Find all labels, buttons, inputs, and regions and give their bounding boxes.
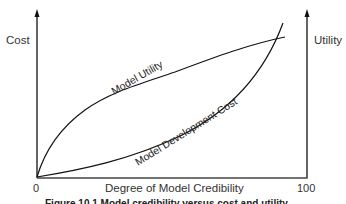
model-utility-label: Model Utility bbox=[109, 57, 165, 96]
chart: Model Utility Model Development Cost bbox=[0, 0, 346, 204]
x-axis-label: Degree of Model Credibility bbox=[105, 182, 244, 194]
figure-caption: Figure 10.1 Model credibility versus cos… bbox=[45, 198, 288, 204]
left-axis-arrow-icon bbox=[35, 9, 40, 17]
model-utility-curve bbox=[37, 37, 285, 177]
x-max-tick: 100 bbox=[297, 182, 315, 194]
right-axis-arrow-icon bbox=[305, 9, 310, 17]
x-min-tick: 0 bbox=[33, 182, 39, 194]
right-axis-label: Utility bbox=[314, 34, 342, 46]
model-development-cost-label: Model Development Cost bbox=[133, 95, 239, 168]
left-axis-label: Cost bbox=[6, 34, 30, 46]
